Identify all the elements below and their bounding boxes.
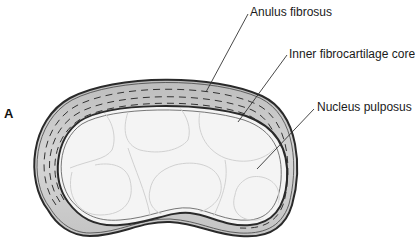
label-nucleus-pulposus: Nucleus pulposus [317, 100, 412, 114]
leader-line-anulus [206, 14, 248, 92]
panel-letter: A [4, 106, 13, 121]
label-anulus-fibrosus: Anulus fibrosus [250, 5, 332, 19]
intervertebral-disc-diagram [0, 0, 415, 249]
label-inner-fibrocartilage-core: Inner fibrocartilage core [289, 47, 415, 61]
